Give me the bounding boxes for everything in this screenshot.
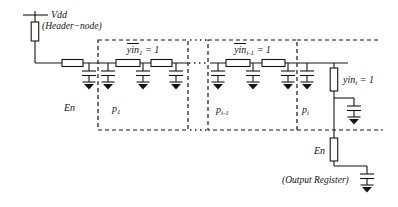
stage2-gate-label: yini-1 = 1 bbox=[208, 43, 297, 55]
stage2-node-sub: i-1 bbox=[221, 109, 229, 117]
ellipsis-dots bbox=[189, 40, 209, 130]
capacitor-ground bbox=[300, 63, 314, 90]
stage1-node-label: p1 bbox=[112, 103, 121, 114]
enable-left-label: En bbox=[64, 102, 75, 113]
capacitor-ground bbox=[101, 63, 115, 90]
enable-output-transistor bbox=[330, 138, 338, 161]
stage3-node-sub: i bbox=[307, 109, 309, 117]
enable-output-label: En bbox=[314, 145, 325, 156]
stage1-gate-eq: = 1 bbox=[142, 44, 159, 55]
stage2-gate-sub: i-1 bbox=[246, 49, 254, 57]
header-node-label: (Header−node) bbox=[42, 21, 102, 32]
header-transistor bbox=[31, 22, 39, 41]
stage1-gate-label: yin1 = 1 bbox=[98, 43, 188, 55]
stage1-gate-base: yin bbox=[127, 43, 139, 55]
yin-i-label: yini = 1 bbox=[343, 74, 374, 85]
stage2-gate-base: yin bbox=[234, 43, 246, 55]
enable-resistor bbox=[62, 60, 83, 67]
stage2-gate-eq: = 1 bbox=[254, 44, 271, 55]
stage2-resistor-b bbox=[262, 60, 285, 67]
stage2-resistor-a bbox=[226, 60, 250, 67]
stage2-node-label: pi-1 bbox=[216, 104, 229, 115]
vdd-label: Vdd bbox=[51, 9, 67, 20]
stage1-resistor-b bbox=[151, 60, 172, 67]
output-register-capacitor-ground bbox=[360, 166, 374, 193]
yin-i-eq: = 1 bbox=[357, 74, 374, 85]
circuit-diagram: Vdd (Header−node) En yin1 = 1 yini-1 = 1… bbox=[0, 0, 398, 207]
output-register-label: (Output Register) bbox=[282, 175, 349, 186]
capacitor-ground bbox=[211, 63, 225, 90]
stage3-node-label: pi bbox=[302, 104, 309, 115]
node-i-capacitor-ground bbox=[347, 98, 361, 125]
yin-i-transistor bbox=[330, 68, 338, 91]
stage1-node-sub: 1 bbox=[117, 108, 121, 116]
capacitor-ground bbox=[82, 63, 96, 90]
stage1-resistor-a bbox=[116, 60, 140, 67]
yin-i-base: yin bbox=[343, 74, 355, 85]
